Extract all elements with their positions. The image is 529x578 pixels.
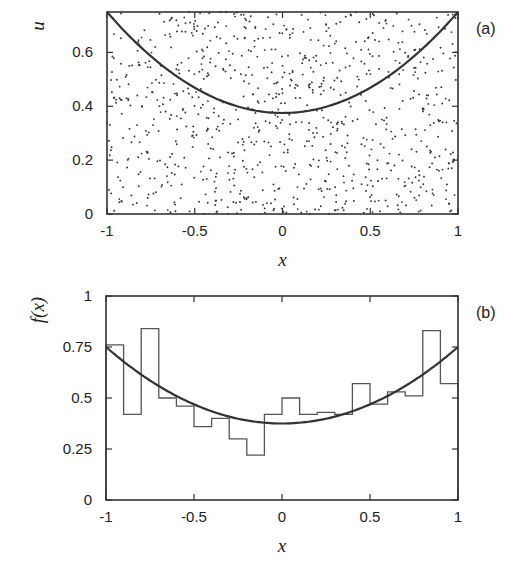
scatter-point: [387, 205, 389, 207]
scatter-point: [333, 88, 335, 90]
y-axis-title: u: [27, 21, 48, 31]
scatter-point: [408, 19, 410, 21]
scatter-point: [243, 141, 245, 143]
scatter-point: [427, 103, 429, 105]
scatter-point: [184, 112, 186, 114]
scatter-point: [275, 125, 277, 127]
scatter-point: [357, 118, 359, 120]
scatter-point: [340, 80, 342, 82]
scatter-point: [189, 210, 191, 212]
scatter-point: [418, 174, 420, 176]
scatter-point: [188, 57, 190, 59]
x-tick-label: -0.5: [182, 222, 208, 239]
scatter-point: [386, 123, 388, 125]
scatter-point: [283, 72, 285, 74]
scatter-point: [257, 87, 259, 89]
scatter-point: [176, 31, 178, 33]
scatter-point: [117, 176, 119, 178]
scatter-point: [342, 207, 344, 209]
scatter-point: [193, 73, 195, 75]
scatter-point: [136, 202, 138, 204]
scatter-point: [432, 192, 434, 194]
scatter-point: [429, 166, 431, 168]
scatter-point: [422, 107, 424, 109]
scatter-point: [227, 172, 229, 174]
scatter-point: [252, 168, 254, 170]
scatter-point: [120, 63, 122, 65]
scatter-point: [259, 161, 261, 163]
scatter-point: [163, 82, 165, 84]
scatter-point: [335, 194, 337, 196]
scatter-point: [320, 205, 322, 207]
y-tick-label: 0.25: [63, 440, 92, 457]
scatter-point: [244, 37, 246, 39]
scatter-point: [218, 130, 220, 132]
scatter-point: [143, 29, 145, 31]
scatter-point: [229, 123, 231, 125]
scatter-point: [216, 128, 218, 130]
scatter-point: [176, 92, 178, 94]
scatter-point: [252, 93, 254, 95]
scatter-point: [149, 39, 151, 41]
scatter-point: [252, 201, 254, 203]
scatter-point: [383, 147, 385, 149]
scatter-point: [299, 97, 301, 99]
scatter-point: [205, 193, 207, 195]
scatter-point: [336, 130, 338, 132]
scatter-point: [442, 169, 444, 171]
scatter-point: [404, 181, 406, 183]
scatter-point: [309, 83, 311, 85]
scatter-point: [411, 182, 413, 184]
scatter-point: [154, 177, 156, 179]
scatter-point: [423, 56, 425, 58]
scatter-point: [351, 180, 353, 182]
scatter-point: [365, 176, 367, 178]
scatter-point: [392, 25, 394, 27]
scatter-point: [414, 31, 416, 33]
scatter-point: [228, 50, 230, 52]
scatter-point: [320, 93, 322, 95]
scatter-point: [109, 154, 111, 156]
scatter-point: [428, 114, 430, 116]
scatter-point: [248, 66, 250, 68]
scatter-point: [250, 15, 252, 17]
scatter-point: [128, 65, 130, 67]
scatter-point: [366, 73, 368, 75]
scatter-point: [395, 60, 397, 62]
scatter-point: [246, 198, 248, 200]
scatter-point: [171, 172, 173, 174]
scatter-point: [208, 117, 210, 119]
density-curve: [107, 12, 458, 113]
scatter-point: [368, 163, 370, 165]
scatter-point: [207, 72, 209, 74]
panel-a-scatter: -1-0.500.51 00.20.40.6 x u (a): [27, 11, 496, 270]
scatter-point: [328, 27, 330, 29]
scatter-point: [370, 180, 372, 182]
scatter-point: [367, 37, 369, 39]
scatter-point: [194, 105, 196, 107]
scatter-point: [249, 21, 251, 23]
scatter-point: [122, 186, 124, 188]
scatter-point: [243, 196, 245, 198]
scatter-point: [265, 28, 267, 30]
scatter-point: [257, 38, 259, 40]
scatter-point: [116, 161, 118, 163]
scatter-point: [169, 33, 171, 35]
scatter-point: [341, 122, 343, 124]
scatter-point: [113, 33, 115, 35]
scatter-point: [445, 189, 447, 191]
scatter-point: [337, 128, 339, 130]
scatter-point: [292, 70, 294, 72]
scatter-point: [309, 87, 311, 89]
scatter-point: [358, 21, 360, 23]
scatter-point: [315, 60, 317, 62]
scatter-point: [174, 164, 176, 166]
y-tick-labels: 00.250.50.751: [63, 287, 92, 508]
scatter-point: [431, 205, 433, 207]
scatter-point: [177, 64, 179, 66]
scatter-point: [235, 202, 237, 204]
scatter-point: [368, 69, 370, 71]
scatter-point: [137, 156, 139, 158]
scatter-point: [349, 13, 351, 15]
scatter-point: [119, 86, 121, 88]
